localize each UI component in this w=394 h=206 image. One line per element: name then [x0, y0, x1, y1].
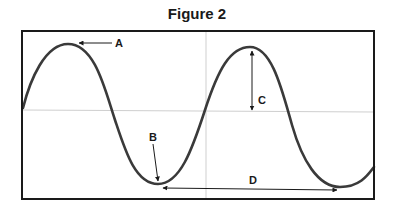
- label-b: B: [149, 131, 157, 143]
- label-c: C: [258, 94, 266, 106]
- sine-wave: [23, 44, 374, 187]
- label-d: D: [249, 174, 257, 186]
- graph-frame: [22, 31, 374, 199]
- midline: [23, 110, 373, 112]
- wave-diagram: A B C D: [0, 0, 394, 206]
- arrow-d: [163, 188, 337, 190]
- label-a: A: [115, 37, 123, 49]
- arrow-b: [153, 144, 158, 181]
